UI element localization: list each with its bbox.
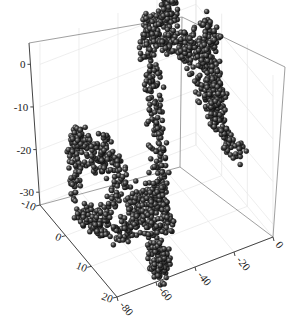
- x-axis: -80-60-40-200: [117, 237, 287, 318]
- y-tick-label: 0: [54, 230, 64, 243]
- z-axis-line: [29, 43, 40, 205]
- x-tick-label: -20: [234, 254, 253, 273]
- z-axis: 0-10-20-30: [14, 43, 40, 205]
- z-tick-label: 0: [20, 58, 26, 70]
- z-tick-label: -10: [14, 101, 29, 113]
- x-tick-label: 0: [273, 239, 286, 251]
- x-tick-label: -80: [117, 299, 136, 318]
- y-tick-label: -10: [20, 196, 39, 213]
- data-points: [65, 0, 249, 287]
- z-tick-label: -20: [17, 144, 32, 156]
- 3d-scatter-plot: 0-10-20-30 -1001020 -80-60-40-200: [0, 0, 297, 320]
- box-right-vertical-edge: [273, 67, 285, 237]
- x-tick-label: -40: [195, 269, 214, 288]
